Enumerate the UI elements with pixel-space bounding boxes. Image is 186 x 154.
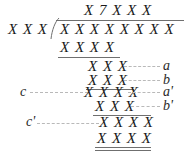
leader-line-c-prime xyxy=(37,123,99,124)
leader-line-a-prime xyxy=(128,92,160,93)
final-rule-upper xyxy=(95,147,151,148)
leader-line-b-prime xyxy=(131,106,160,107)
partial-product-row-5: X X X xyxy=(95,98,135,115)
row-label-b-prime: b' xyxy=(163,98,173,114)
division-bracket-icon xyxy=(50,17,60,40)
remainder-row: X X X X xyxy=(97,130,152,147)
leader-line-a xyxy=(124,66,160,67)
partial-product-row-6: X X X X xyxy=(99,114,154,131)
final-rule-lower xyxy=(95,150,151,151)
divisor-digits: X X X xyxy=(8,21,48,38)
quotient-digits: X 7 X X X xyxy=(84,2,152,19)
partial-product-row-1: X X X X xyxy=(60,39,115,56)
leader-line-c xyxy=(30,92,88,93)
dividend-digits: X X X X X X X X xyxy=(60,21,175,38)
leader-line-b xyxy=(124,80,160,81)
row-label-c: c xyxy=(20,84,26,100)
row-label-c-prime: c' xyxy=(26,114,35,130)
long-division-figure: X 7 X X X X X X X X X X X X X X X X X X … xyxy=(0,0,186,154)
